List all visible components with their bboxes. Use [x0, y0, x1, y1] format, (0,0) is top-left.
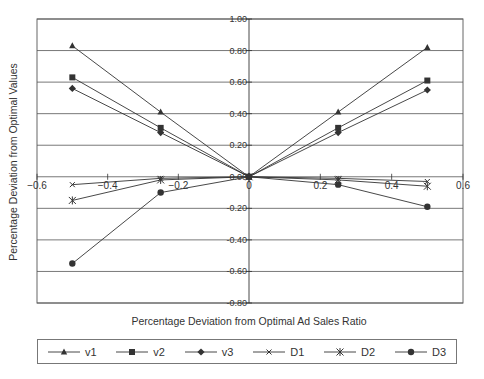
legend-item-d1: D1	[253, 346, 304, 358]
x-tick-label: 0	[246, 180, 252, 191]
legend-item-v2: v2	[116, 346, 165, 358]
chart-legend: v1v2v3D1D2D3	[37, 339, 457, 364]
y-tick-label: -0.20	[226, 203, 247, 213]
legend-label: D2	[361, 346, 375, 358]
y-axis-label: Percentage Deviation from Optimal Values	[7, 63, 19, 261]
star-marker-icon	[324, 347, 356, 357]
y-tick-label: -0.80	[226, 298, 247, 308]
data-series	[69, 42, 431, 266]
circle-marker-icon	[395, 347, 427, 357]
y-axis-ticks: 1.000.800.600.400.200.00-0.20-0.40-0.60-…	[226, 14, 252, 308]
series-v3	[69, 85, 431, 181]
legend-label: D3	[432, 346, 446, 358]
y-tick-label: 1.00	[229, 14, 247, 24]
legend-item-v1: v1	[48, 346, 97, 358]
diamond-marker-icon	[185, 347, 217, 357]
legend-label: v1	[85, 346, 97, 358]
x-axis-label: Percentage Deviation from Optimal Ad Sal…	[131, 315, 366, 327]
line-chart: 1.000.800.600.400.200.00-0.20-0.40-0.60-…	[0, 0, 484, 379]
y-tick-label: 0.60	[229, 77, 247, 87]
y-tick-label: -0.60	[226, 266, 247, 276]
x-tick-label: −0.6	[27, 180, 47, 191]
y-tick-label: 0.40	[229, 109, 247, 119]
plot-area	[37, 19, 463, 303]
legend-item-d3: D3	[395, 346, 446, 358]
plot-border	[37, 19, 463, 303]
x-tick-label: 0.4	[385, 180, 399, 191]
legend-item-d2: D2	[324, 346, 375, 358]
y-tick-label: 0.80	[229, 46, 247, 56]
x-tick-label: 0.2	[313, 180, 327, 191]
legend-label: v2	[153, 346, 165, 358]
y-tick-label: 0.20	[229, 140, 247, 150]
series-v1	[69, 42, 430, 179]
x-tick-label: 0.6	[456, 180, 470, 191]
legend-label: v3	[222, 346, 234, 358]
square-marker-icon	[116, 347, 148, 357]
x-marker-icon	[253, 347, 285, 357]
triangle-marker-icon	[48, 347, 80, 357]
legend-label: D1	[290, 346, 304, 358]
series-v2	[69, 74, 430, 179]
y-tick-label: -0.40	[226, 235, 247, 245]
gridlines	[37, 19, 463, 303]
legend-item-v3: v3	[185, 346, 234, 358]
